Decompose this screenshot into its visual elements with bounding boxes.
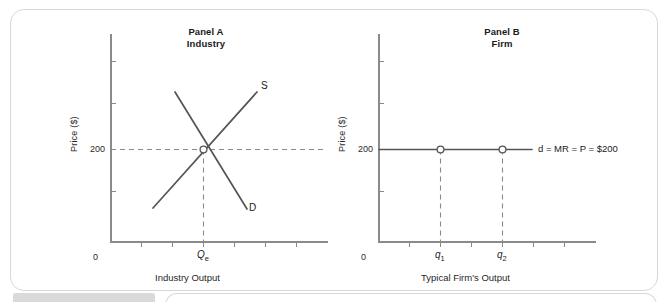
panel-a-plot: [11, 10, 335, 292]
next-card-top-edge: [165, 293, 657, 302]
figure-card: Panel A Industry Price ($) 200 0: [10, 9, 658, 291]
panel-b-firm: Panel B Firm Price ($) 200 0: [335, 10, 659, 292]
panel-b-q1-point: [437, 146, 444, 153]
panel-b-demand-line-label: d = MR = P = $200: [538, 143, 618, 154]
screenshot-root: Panel A Industry Price ($) 200 0: [0, 0, 667, 302]
panel-b-q2-point: [499, 146, 506, 153]
panel-a-demand-label: D: [249, 202, 256, 213]
panel-a-demand-curve: [175, 92, 247, 209]
panel-a-equilibrium-point: [200, 146, 207, 153]
panel-a-supply-label: S: [261, 80, 268, 91]
gray-placeholder-bar: [13, 293, 155, 302]
panel-a-industry: Panel A Industry Price ($) 200 0: [11, 10, 335, 292]
